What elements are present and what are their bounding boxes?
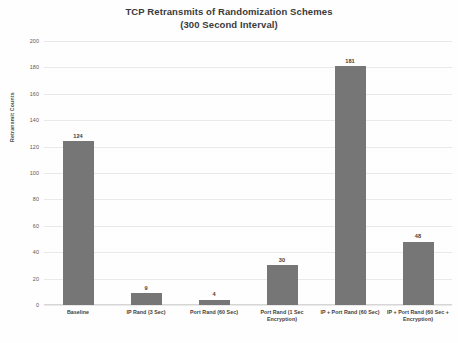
- gridline: [44, 305, 452, 306]
- y-axis-tick-label: 160: [11, 94, 39, 95]
- bar-value-label: 48: [398, 233, 438, 239]
- x-axis-tick-label: IP Rand (3 Sec): [109, 309, 183, 316]
- gridline: [44, 252, 452, 253]
- plot-area: 020406080100120140160180200124943018148: [44, 41, 452, 305]
- bar: 30: [267, 265, 298, 305]
- y-axis-tick-label: 80: [11, 199, 39, 200]
- y-axis-title: Retransmit Counts: [9, 42, 21, 142]
- gridline: [44, 41, 452, 42]
- chart-title-line-2: (300 Second Interval): [0, 19, 458, 32]
- y-axis-tick-label: 20: [11, 279, 39, 280]
- bar-chart: TCP Retransmits of Randomization Schemes…: [0, 0, 458, 343]
- y-axis-tick-label: 0: [11, 305, 39, 306]
- y-axis-tick-label: 140: [11, 120, 39, 121]
- y-axis-tick-label: 200: [11, 41, 39, 42]
- x-axis-tick-label: IP + Port Rand (60 Sec): [313, 309, 387, 316]
- y-axis-tick-label: 60: [11, 226, 39, 227]
- bar-value-label: 4: [194, 291, 234, 297]
- gridline: [44, 199, 452, 200]
- y-axis-tick-label: 180: [11, 67, 39, 68]
- y-axis-tick-label: 120: [11, 147, 39, 148]
- gridline: [44, 120, 452, 121]
- bar: 9: [131, 293, 162, 305]
- gridline: [44, 94, 452, 95]
- chart-title-line-1: TCP Retransmits of Randomization Schemes: [125, 6, 332, 17]
- gridline: [44, 226, 452, 227]
- gridline: [44, 279, 452, 280]
- chart-title: TCP Retransmits of Randomization Schemes…: [0, 6, 458, 31]
- y-axis-tick-label: 40: [11, 252, 39, 253]
- bar-value-label: 124: [58, 133, 98, 139]
- gridline: [44, 67, 452, 68]
- x-axis-tick-label: Baseline: [41, 309, 115, 316]
- bar: 48: [403, 242, 434, 305]
- bar-value-label: 181: [330, 58, 370, 64]
- gridline: [44, 173, 452, 174]
- bar: 124: [63, 141, 94, 305]
- x-axis-tick-label: Port Rand (60 Sec): [177, 309, 251, 316]
- gridline: [44, 147, 452, 148]
- bar-value-label: 9: [126, 285, 166, 291]
- x-axis-tick-label: IP + Port Rand (60 Sec + Encryption): [381, 309, 455, 323]
- bar-value-label: 30: [262, 257, 302, 263]
- bar: 181: [335, 66, 366, 305]
- bar: 4: [199, 300, 230, 305]
- x-axis-tick-label: Port Rand (1 Sec Encryption): [245, 309, 319, 323]
- y-axis-tick-label: 100: [11, 173, 39, 174]
